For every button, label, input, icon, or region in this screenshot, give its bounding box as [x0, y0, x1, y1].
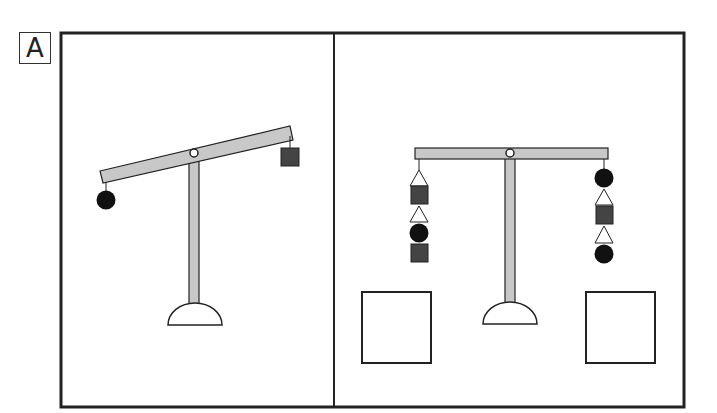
square-weight-icon	[411, 186, 428, 204]
answer-box-left[interactable]	[362, 292, 431, 363]
scale-post	[505, 158, 515, 304]
circle-weight-icon	[97, 191, 116, 210]
balance-diagram	[0, 0, 717, 413]
scale-post	[189, 158, 199, 306]
scale-base	[483, 302, 537, 324]
scale-base	[168, 303, 222, 325]
left-scale	[97, 126, 300, 325]
circle-weight-icon	[595, 245, 614, 264]
square-weight-icon	[596, 206, 613, 224]
circle-weight-icon	[595, 169, 614, 188]
triangle-weight-icon	[410, 170, 428, 186]
triangle-weight-icon	[595, 226, 613, 243]
square-weight-icon	[411, 244, 428, 262]
triangle-weight-icon	[595, 189, 613, 205]
right-scale	[362, 148, 655, 363]
circle-weight-icon	[410, 224, 429, 243]
pivot-icon	[506, 149, 514, 157]
pivot-icon	[190, 149, 198, 157]
square-weight-icon	[281, 148, 299, 166]
answer-box-right[interactable]	[586, 292, 655, 363]
triangle-weight-icon	[410, 206, 428, 222]
